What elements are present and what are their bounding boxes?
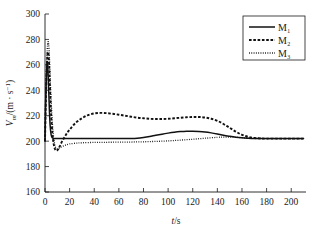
legend-label-2: M₂ [278,35,290,46]
x-tick-label: 60 [114,197,124,207]
x-tick-label: 200 [284,197,299,207]
svg-text:t/s: t/s [172,216,181,226]
curve-M1 [45,62,304,141]
line-chart: 160180200220240260280300 020406080100120… [0,0,315,237]
y-tick-label: 300 [26,9,41,19]
chart-figure: 160180200220240260280300 020406080100120… [0,0,315,237]
x-axis-title: t/s [172,216,181,226]
y-tick-label: 160 [26,187,41,197]
svg-text:Vm/(m · s−1): Vm/(m · s−1) [4,80,18,126]
y-tick-label: 260 [26,60,41,70]
x-tick-label: 40 [89,197,99,207]
legend-label-3: M₃ [278,48,290,59]
x-tick-label: 20 [65,197,75,207]
x-tick-label: 180 [259,197,274,207]
y-tick-label: 240 [26,86,41,96]
y-tick-label: 220 [26,111,41,121]
x-tick-label: 0 [43,197,48,207]
legend-border [243,16,305,60]
x-tick-label: 120 [186,197,201,207]
x-tick-label: 160 [235,197,250,207]
y-tick-label: 200 [26,137,41,147]
y-tick-label: 280 [26,35,41,45]
x-tick-label: 80 [139,197,149,207]
curve-M2 [45,52,304,151]
x-axis-tick-labels: 020406080100120140160180200 [43,197,299,207]
x-tick-label: 140 [210,197,225,207]
y-tick-label: 180 [26,162,41,172]
y-axis-tick-labels: 160180200220240260280300 [26,9,41,197]
y-axis-title: Vm/(m · s−1) [4,80,18,126]
x-axis-ticks [45,188,291,192]
legend-label-1: M₁ [278,22,290,33]
x-tick-label: 100 [161,197,176,207]
chart-legend: M₁M₂M₃ [243,16,305,60]
